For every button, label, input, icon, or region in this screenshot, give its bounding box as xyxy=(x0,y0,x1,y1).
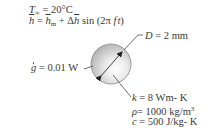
diameter-value: 2 mm xyxy=(164,30,188,41)
specific-heat-equals: = xyxy=(137,116,148,127)
ambient-equals: = xyxy=(40,4,51,15)
generation-symbol: g xyxy=(31,62,36,73)
convection-paren-close: ) xyxy=(120,15,124,26)
diameter-label: D = 2 mm xyxy=(145,30,188,41)
convection-sin: sin xyxy=(79,15,97,26)
property-specific-heat: c = 500 J/kg- K xyxy=(132,116,197,127)
conductivity-value: 8 Wm- K xyxy=(148,92,187,103)
conductivity-equals: = xyxy=(137,92,148,103)
diameter-symbol: D xyxy=(145,30,153,41)
diameter-leader-line xyxy=(124,35,143,50)
convection-plus-delta: + Δ xyxy=(56,15,74,26)
generation-value: 0.01 W xyxy=(47,62,78,73)
ambient-value: 20°C xyxy=(51,4,73,15)
generation-label: g = 0.01 W xyxy=(31,62,78,73)
diameter-equals: = xyxy=(153,30,164,41)
convection-equals: = xyxy=(34,15,45,26)
diagram-canvas: T∞ = 20°C h = hm + Δh sin (2π ft) D = 2 … xyxy=(0,0,208,134)
convection-equation: h = hm + Δh sin (2π ft) xyxy=(29,15,124,30)
density-superscript: 3 xyxy=(191,105,195,113)
convection-paren-open: (2π xyxy=(97,15,114,26)
generation-equals: = xyxy=(36,62,47,73)
specific-heat-value: 500 J/kg- K xyxy=(148,116,198,127)
convection-f: f xyxy=(114,15,117,26)
property-conductivity: k = 8 Wm- K xyxy=(132,92,187,103)
